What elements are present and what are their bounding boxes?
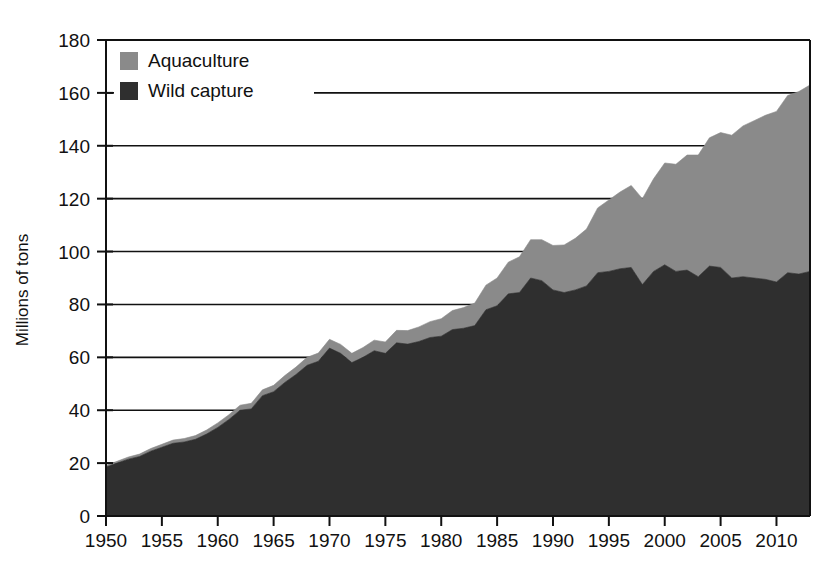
- y-axis-tick-label: 60: [69, 347, 90, 368]
- y-axis-tick-label: 140: [58, 136, 90, 157]
- legend-swatch-aquaculture: [120, 52, 138, 70]
- y-axis-title-group: Millions of tons: [13, 234, 32, 346]
- x-axis-tick-label: 1975: [364, 530, 406, 551]
- x-axis-tick-label: 1970: [308, 530, 350, 551]
- legend-label-wild-capture: Wild capture: [148, 80, 254, 101]
- chart-legend: AquacultureWild capture: [114, 42, 314, 104]
- y-axis-tick-label: 40: [69, 400, 90, 421]
- y-axis-tick-label: 120: [58, 189, 90, 210]
- x-axis-tick-label: 1960: [197, 530, 239, 551]
- x-axis-tick-label: 1965: [252, 530, 294, 551]
- legend-label-aquaculture: Aquaculture: [148, 50, 249, 71]
- x-axis-tick-label: 2005: [699, 530, 741, 551]
- x-axis-tick-label: 1995: [588, 530, 630, 551]
- y-axis-title: Millions of tons: [13, 234, 32, 346]
- y-axis-tick-label: 80: [69, 294, 90, 315]
- y-axis-tick-label: 100: [58, 242, 90, 263]
- x-axis-tick-label: 2010: [755, 530, 797, 551]
- x-axis-tick-label: 1985: [476, 530, 518, 551]
- x-axis-tick-label: 1990: [532, 530, 574, 551]
- x-axis-tick-label: 1950: [85, 530, 127, 551]
- y-axis-tick-label: 0: [79, 506, 90, 527]
- x-axis-tick-label: 2000: [644, 530, 686, 551]
- x-axis-tick-label: 1980: [420, 530, 462, 551]
- chart-canvas: 020406080100120140160180 195019551960196…: [0, 0, 832, 565]
- y-axis-tick-label: 20: [69, 453, 90, 474]
- legend-swatch-wild-capture: [120, 82, 138, 100]
- y-axis-tick-label: 180: [58, 30, 90, 51]
- y-axis-tick-label: 160: [58, 83, 90, 104]
- x-axis-tick-label: 1955: [141, 530, 183, 551]
- fisheries-production-chart: 020406080100120140160180 195019551960196…: [0, 0, 832, 565]
